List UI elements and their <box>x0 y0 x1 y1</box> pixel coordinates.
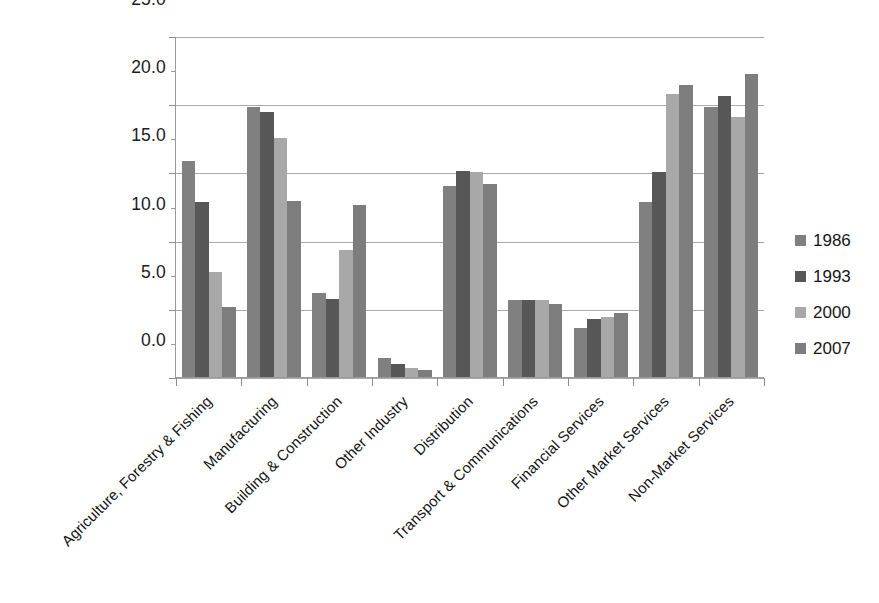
bar <box>522 300 536 378</box>
y-axis-tick-label: 20.0 <box>131 57 166 78</box>
legend-item: 1986 <box>795 232 851 249</box>
x-axis-category-label: Non-Market Services <box>442 392 737 603</box>
bar <box>666 94 680 378</box>
bar <box>274 138 288 378</box>
bar <box>326 299 340 378</box>
bar <box>222 307 236 378</box>
y-axis-tick <box>169 37 176 38</box>
y-axis-tick <box>169 310 176 311</box>
bar <box>614 313 628 378</box>
y-axis-tick-label: 0.0 <box>141 330 166 351</box>
x-axis-category-label: Financial Services <box>312 392 607 603</box>
bar <box>508 300 522 378</box>
x-axis-tick <box>568 378 569 386</box>
x-axis-tick <box>437 378 438 386</box>
gridline <box>176 378 764 379</box>
x-axis-tick <box>699 378 700 386</box>
bar <box>731 117 745 378</box>
y-axis-tick <box>169 242 176 243</box>
legend: 1986199320002007 <box>795 232 851 357</box>
bar <box>339 250 353 378</box>
bar <box>195 202 209 378</box>
bar <box>639 202 653 378</box>
x-axis-category-label: Transport & Communications <box>246 392 541 603</box>
x-axis-tick <box>633 378 634 386</box>
bar <box>704 107 718 378</box>
bar-group <box>699 37 764 378</box>
x-axis-category-label: Building & Construction <box>50 392 345 603</box>
plot-area <box>176 37 764 378</box>
legend-label: 1993 <box>813 268 851 285</box>
legend-label: 1986 <box>813 232 851 249</box>
x-axis-tick <box>176 378 177 386</box>
bar <box>182 161 196 378</box>
bar <box>443 186 457 378</box>
bar <box>391 364 405 378</box>
bar <box>247 107 261 378</box>
y-axis-tick-label: 5.0 <box>141 262 166 283</box>
bar <box>652 172 666 378</box>
bar-group <box>503 37 568 378</box>
x-axis-tick <box>307 378 308 386</box>
bar-groups <box>176 37 764 378</box>
bar <box>260 112 274 378</box>
bar-chart: 0.05.010.015.020.025.0 Agriculture, Fore… <box>0 0 879 603</box>
x-axis-category-label: Other Market Services <box>377 392 672 603</box>
x-axis-category-label: Distribution <box>181 392 476 603</box>
y-axis-tick-labels: 0.05.010.015.020.025.0 <box>104 0 166 341</box>
legend-swatch-icon <box>795 271 806 282</box>
bar <box>549 304 563 378</box>
y-axis-tick-label: 10.0 <box>131 194 166 215</box>
bar <box>378 358 392 378</box>
legend-label: 2007 <box>813 340 851 357</box>
bar <box>209 272 223 378</box>
x-axis-tick <box>503 378 504 386</box>
legend-swatch-icon <box>795 235 806 246</box>
x-axis-category-label: Agriculture, Forestry & Fishing <box>0 392 215 603</box>
bar <box>287 201 301 378</box>
x-axis-category-label: Other Industry <box>116 392 411 603</box>
bar <box>312 293 326 378</box>
bar <box>601 317 615 378</box>
bar-group <box>241 37 306 378</box>
bar <box>483 184 497 378</box>
bar-group <box>633 37 698 378</box>
bar <box>745 74 759 378</box>
bar-group <box>437 37 502 378</box>
bar-group <box>372 37 437 378</box>
legend-item: 2007 <box>795 340 851 357</box>
x-axis-tick <box>372 378 373 386</box>
x-axis-tick <box>241 378 242 386</box>
bar-group <box>176 37 241 378</box>
bar-group <box>307 37 372 378</box>
bar <box>587 319 601 378</box>
bar <box>574 328 588 378</box>
legend-swatch-icon <box>795 307 806 318</box>
x-axis-line <box>176 377 764 378</box>
bar <box>353 205 367 378</box>
y-axis-tick-label: 25.0 <box>131 0 166 10</box>
x-axis-category-label: Manufacturing <box>0 392 280 603</box>
bar <box>718 96 732 378</box>
legend-label: 2000 <box>813 304 851 321</box>
bar <box>470 172 484 378</box>
y-axis-tick <box>169 378 176 379</box>
legend-swatch-icon <box>795 343 806 354</box>
bar-group <box>568 37 633 378</box>
bar <box>535 300 549 378</box>
bar <box>679 85 693 378</box>
legend-item: 1993 <box>795 268 851 285</box>
y-axis-tick-label: 15.0 <box>131 125 166 146</box>
y-axis-tick <box>169 173 176 174</box>
legend-item: 2000 <box>795 304 851 321</box>
x-axis-tick <box>764 378 765 386</box>
bar <box>456 171 470 378</box>
y-axis-tick <box>169 105 176 106</box>
